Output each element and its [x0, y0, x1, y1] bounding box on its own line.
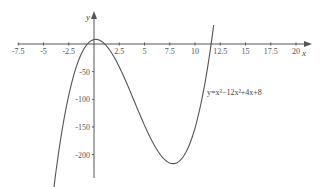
tick-labels: -7.5-5-2.52.557.51012.51517.520-50-100-1… — [12, 47, 300, 160]
x-axis-arrow-icon — [304, 41, 312, 47]
x-tick-label: 10 — [191, 47, 199, 56]
x-tick-label: 2.5 — [114, 47, 124, 56]
equation-label: y=x³−12x²+4x+8 — [207, 88, 262, 97]
x-tick-label: 20 — [292, 47, 300, 56]
x-tick-label: 12.5 — [213, 47, 227, 56]
x-tick-label: 5 — [143, 47, 147, 56]
y-tick-label: -50 — [79, 68, 90, 77]
x-tick-label: -5 — [40, 47, 47, 56]
y-axis-label: y — [85, 12, 90, 22]
cubic-curve — [54, 25, 214, 187]
axes — [18, 11, 312, 178]
y-tick-label: -150 — [75, 123, 90, 132]
x-tick-label: 7.5 — [165, 47, 175, 56]
y-tick-label: -200 — [75, 151, 90, 160]
x-axis-label: x — [301, 48, 306, 58]
x-tick-label: 15 — [242, 47, 250, 56]
y-tick-label: -100 — [75, 95, 90, 104]
x-tick-label: -2.5 — [62, 47, 75, 56]
x-tick-label: 17.5 — [264, 47, 278, 56]
tick-marks — [18, 43, 296, 155]
y-axis-arrow-icon — [91, 11, 97, 19]
plot-canvas: -7.5-5-2.52.557.51012.51517.520-50-100-1… — [0, 0, 320, 187]
x-tick-label: -7.5 — [12, 47, 25, 56]
function-plot: -7.5-5-2.52.557.51012.51517.520-50-100-1… — [0, 0, 320, 187]
